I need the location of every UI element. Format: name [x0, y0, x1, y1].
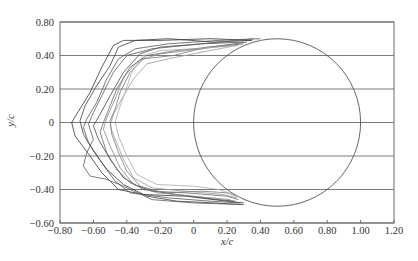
x-tick-label: 0.60: [285, 225, 303, 236]
y-axis-label: y/c: [5, 114, 16, 128]
x-tick-label: 1.00: [351, 225, 369, 236]
chart: −0.80−0.60−0.40−0.2000.200.400.600.801.0…: [0, 0, 418, 261]
y-tick-label: 0.20: [36, 84, 54, 95]
x-tick-label: 0.20: [218, 225, 236, 236]
y-tick-label: −0.20: [30, 151, 54, 162]
y-tick-label: 0: [49, 117, 54, 128]
y-tick-label: 0.80: [36, 17, 54, 28]
x-tick-label: −0.60: [81, 225, 105, 236]
x-tick-label: 0.80: [318, 225, 336, 236]
series-line-8: [110, 44, 244, 196]
series-line-10: [115, 45, 239, 194]
y-tick-label: −0.40: [30, 184, 54, 195]
series-line-1: [72, 39, 252, 203]
y-tick-label: 0.40: [36, 50, 54, 61]
x-axis-label: x/c: [220, 236, 234, 247]
x-tick-label: 0.40: [251, 225, 269, 236]
x-tick-label: −0.40: [115, 225, 139, 236]
series-layer: [72, 39, 261, 205]
x-tick-label: 1.20: [385, 225, 403, 236]
x-tick-label: −0.20: [148, 225, 172, 236]
x-axis-ticks: −0.80−0.60−0.40−0.2000.200.400.600.801.0…: [48, 220, 403, 236]
x-tick-label: 0: [191, 225, 196, 236]
y-axis-ticks: 0.800.400.200−0.20−0.40−0.60: [30, 17, 54, 229]
y-tick-label: −0.60: [30, 218, 54, 229]
